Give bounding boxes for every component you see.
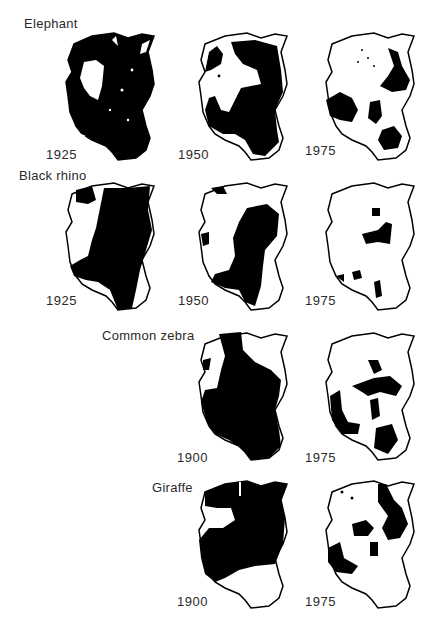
map-elephant-1925 <box>62 30 162 162</box>
year-label: 1975 <box>305 450 336 465</box>
species-label-giraffe: Giraffe <box>152 480 193 495</box>
distribution-map <box>195 330 295 462</box>
distribution-map <box>195 30 295 162</box>
figure-caption-truncated <box>10 614 430 626</box>
distribution-map <box>62 180 162 312</box>
distribution-map <box>322 478 422 610</box>
distribution-map <box>322 30 422 162</box>
year-label: 1925 <box>46 147 77 162</box>
species-label-elephant: Elephant <box>24 16 78 31</box>
map-giraffe-1900 <box>195 478 295 610</box>
year-label: 1975 <box>305 143 336 158</box>
distribution-map <box>322 180 422 312</box>
distribution-map <box>322 330 422 462</box>
year-label: 1975 <box>305 293 336 308</box>
year-label: 1975 <box>305 594 336 609</box>
map-elephant-1975 <box>322 30 422 162</box>
map-common-zebra-1900 <box>195 330 295 462</box>
year-label: 1900 <box>177 450 208 465</box>
year-label: 1950 <box>178 293 209 308</box>
map-black-rhino-1925 <box>62 180 162 312</box>
map-elephant-1950 <box>195 30 295 162</box>
distribution-map <box>195 478 295 610</box>
year-label: 1950 <box>178 147 209 162</box>
map-common-zebra-1975 <box>322 330 422 462</box>
year-label: 1900 <box>177 594 208 609</box>
map-black-rhino-1975 <box>322 180 422 312</box>
distribution-map <box>195 180 295 312</box>
distribution-map <box>62 30 162 162</box>
species-label-common-zebra: Common zebra <box>102 328 194 343</box>
map-black-rhino-1950 <box>195 180 295 312</box>
year-label: 1925 <box>46 293 77 308</box>
map-giraffe-1975 <box>322 478 422 610</box>
